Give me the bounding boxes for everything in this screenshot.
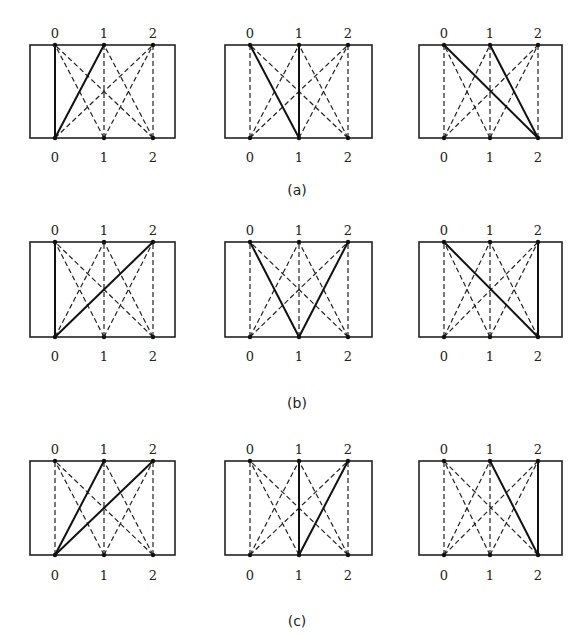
top-node-label: 0 (246, 26, 254, 41)
top-node (297, 43, 301, 47)
top-node (151, 459, 155, 463)
top-node (346, 459, 350, 463)
bottom-node-label: 1 (486, 568, 494, 583)
bottom-node (488, 335, 492, 339)
bottom-node-label: 1 (100, 568, 108, 583)
bottom-node-label: 2 (534, 568, 542, 583)
bottom-node (248, 335, 252, 339)
top-node (151, 240, 155, 244)
bottom-node-label: 1 (486, 349, 494, 364)
top-node (297, 240, 301, 244)
bottom-node (536, 553, 540, 557)
top-node (536, 459, 540, 463)
top-node (488, 43, 492, 47)
bottom-node-label: 0 (246, 568, 254, 583)
bottom-node (297, 136, 301, 140)
bottom-node-label: 0 (246, 150, 254, 165)
top-node-label: 1 (486, 442, 494, 457)
top-node-label: 1 (295, 223, 303, 238)
panel-frame (30, 461, 175, 555)
top-node-label: 0 (246, 223, 254, 238)
panel-b-3: 001122 (419, 223, 562, 364)
bottom-node-label: 2 (344, 568, 352, 583)
panels-layer: 0011220011220011220011220011220011220011… (30, 26, 562, 583)
top-node-label: 2 (344, 26, 352, 41)
top-node (346, 240, 350, 244)
bottom-node-label: 1 (295, 150, 303, 165)
top-node-label: 1 (295, 26, 303, 41)
top-node (346, 43, 350, 47)
top-node (102, 459, 106, 463)
bottom-node-label: 2 (344, 349, 352, 364)
bottom-node-label: 0 (51, 568, 59, 583)
panel-b-2: 001122 (225, 223, 372, 364)
top-node (248, 459, 252, 463)
top-node (536, 240, 540, 244)
top-node-label: 0 (51, 442, 59, 457)
bottom-node (297, 335, 301, 339)
top-node-label: 0 (440, 26, 448, 41)
top-node-label: 2 (534, 442, 542, 457)
bottom-node-label: 1 (100, 150, 108, 165)
bottom-node (488, 553, 492, 557)
panel-frame (30, 45, 175, 138)
panel-c-2: 001122 (225, 442, 372, 583)
top-node-label: 0 (440, 223, 448, 238)
top-node-label: 0 (246, 442, 254, 457)
panel-a-1: 001122 (30, 26, 175, 165)
top-node-label: 1 (100, 223, 108, 238)
panel-c-1: 001122 (30, 442, 175, 583)
bottom-node (151, 335, 155, 339)
panel-b-1: 001122 (30, 223, 175, 364)
top-node-label: 0 (440, 442, 448, 457)
top-node-label: 1 (486, 223, 494, 238)
bottom-node-label: 2 (534, 349, 542, 364)
top-node (53, 240, 57, 244)
bottom-node (346, 136, 350, 140)
bottom-node (488, 136, 492, 140)
top-node (102, 240, 106, 244)
top-node-label: 0 (51, 26, 59, 41)
top-node (297, 459, 301, 463)
bottom-node (442, 553, 446, 557)
bottom-node (53, 335, 57, 339)
panel-a-2: 001122 (225, 26, 372, 165)
bottom-node (53, 553, 57, 557)
bottom-node-label: 0 (51, 349, 59, 364)
top-node (442, 459, 446, 463)
bottom-node (102, 136, 106, 140)
top-node (442, 240, 446, 244)
bottom-node (346, 553, 350, 557)
top-node-label: 2 (534, 26, 542, 41)
bottom-node (536, 136, 540, 140)
bottom-node-label: 2 (534, 150, 542, 165)
top-node (248, 43, 252, 47)
bottom-node (102, 335, 106, 339)
bottom-node-label: 2 (149, 568, 157, 583)
top-node (53, 43, 57, 47)
bottom-node-label: 1 (100, 349, 108, 364)
top-node-label: 2 (534, 223, 542, 238)
bottom-node-label: 0 (51, 150, 59, 165)
top-node (536, 43, 540, 47)
top-node (248, 240, 252, 244)
caption-a: (a) (287, 182, 307, 198)
bottom-node (442, 136, 446, 140)
bottom-node-label: 0 (440, 568, 448, 583)
bottom-node (346, 335, 350, 339)
top-node (151, 43, 155, 47)
top-node-label: 2 (344, 442, 352, 457)
bottom-node-label: 0 (440, 150, 448, 165)
bottom-node-label: 1 (486, 150, 494, 165)
top-node (442, 43, 446, 47)
top-node (488, 240, 492, 244)
bottom-node (442, 335, 446, 339)
bottom-node-label: 1 (295, 349, 303, 364)
top-node (53, 459, 57, 463)
bottom-node-label: 0 (440, 349, 448, 364)
top-node-label: 2 (149, 26, 157, 41)
top-node-label: 1 (100, 26, 108, 41)
bottom-node-label: 2 (149, 349, 157, 364)
top-node-label: 2 (344, 223, 352, 238)
panel-c-3: 001122 (419, 442, 562, 583)
